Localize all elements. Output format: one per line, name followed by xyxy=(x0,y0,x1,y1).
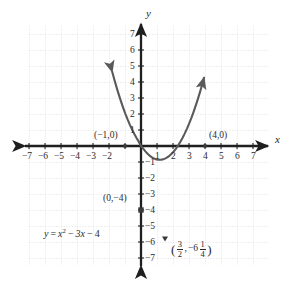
equation-label: y=x2−3x−4 xyxy=(44,228,100,239)
x-tick-3: 3 xyxy=(187,152,192,162)
label-y-intercept: (0,−4) xyxy=(103,194,127,204)
x-tick--7: −7 xyxy=(22,152,32,162)
x-tick-1: 1 xyxy=(155,152,160,162)
vertex-comma: , xyxy=(185,244,187,254)
y-tick-7: 7 xyxy=(130,30,135,40)
vertex-close-paren: ) xyxy=(207,243,211,256)
equation-equals: = xyxy=(50,228,56,239)
vertex-x-fraction: 3 2 xyxy=(177,240,183,258)
y-tick-2: 2 xyxy=(130,110,135,120)
x-tick-5: 5 xyxy=(219,152,224,162)
y-tick--6: −6 xyxy=(145,238,155,248)
point-y-intercept xyxy=(138,207,143,212)
vertex-open-paren: ( xyxy=(171,243,175,256)
equation-term2: 3x xyxy=(76,228,85,239)
x-axis-label: x xyxy=(275,134,280,145)
x-tick--3: −3 xyxy=(86,152,96,162)
y-tick-5: 5 xyxy=(130,62,135,72)
y-tick--1: −1 xyxy=(145,158,155,168)
y-tick--2: −2 xyxy=(145,174,155,184)
x-tick--5: −5 xyxy=(54,152,64,162)
vertex-y-whole: −6 xyxy=(188,244,198,254)
y-tick--5: −5 xyxy=(145,222,155,232)
equation-lhs: y xyxy=(44,228,48,239)
equation-term2-operator: − xyxy=(68,228,74,239)
y-tick-6: 6 xyxy=(130,46,135,56)
x-tick--2: −2 xyxy=(102,152,112,162)
y-tick-3: 3 xyxy=(130,94,135,104)
x-tick-4: 4 xyxy=(203,152,208,162)
x-tick-7: 7 xyxy=(251,152,256,162)
vertex-y-fraction: 1 4 xyxy=(200,240,206,258)
vertex-x-numerator: 3 xyxy=(177,240,183,249)
point-x-intercept-left xyxy=(123,144,127,148)
label-x-intercept-left: (−1,0) xyxy=(94,131,118,141)
point-x-intercept-right xyxy=(203,144,207,148)
graph-figure: x y −7 −6 −5 −4 −3 −2 1 2 3 4 5 6 7 7 6 … xyxy=(0,0,293,293)
equation-exponent: 2 xyxy=(63,227,66,234)
equation-term3-operator: − xyxy=(87,228,93,239)
y-tick--4: −4 xyxy=(145,206,155,216)
y-tick-4: 4 xyxy=(130,78,135,88)
coordinate-plane-svg xyxy=(0,0,293,293)
x-tick-6: 6 xyxy=(235,152,240,162)
vertex-y-numerator: 1 xyxy=(200,240,206,249)
y-axis-label: y xyxy=(146,8,151,19)
y-tick--7: −7 xyxy=(145,254,155,264)
vertex-x-denominator: 2 xyxy=(177,249,183,259)
x-tick--4: −4 xyxy=(70,152,80,162)
y-tick-1: 1 xyxy=(130,126,135,136)
vertex-y-denominator: 4 xyxy=(200,249,206,259)
label-vertex: ( 3 2 , −6 1 4 ) xyxy=(171,240,212,258)
equation-term3: 4 xyxy=(95,228,100,239)
y-tick--3: −3 xyxy=(145,190,155,200)
label-x-intercept-right: (4,0) xyxy=(209,131,227,141)
x-tick-2: 2 xyxy=(171,152,176,162)
x-tick--6: −6 xyxy=(38,152,48,162)
